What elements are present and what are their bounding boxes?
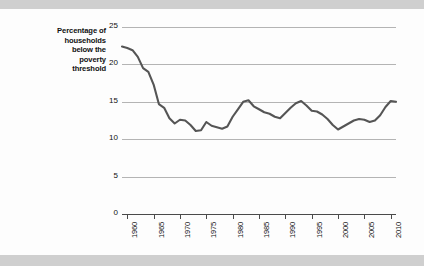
caption-text-4: poverty xyxy=(79,55,106,64)
y-tick-label-20: 20 xyxy=(109,58,118,67)
x-tick-label-2005: 2005 xyxy=(367,222,376,238)
x-tick-2005 xyxy=(364,214,365,219)
caption-text-5: threshold xyxy=(72,64,106,73)
x-tick-1975 xyxy=(206,214,207,219)
y-axis-caption-line-5: threshold xyxy=(14,64,106,74)
x-tick-label-1995: 1995 xyxy=(315,222,324,238)
series-line-path xyxy=(122,46,396,131)
x-tick-1970 xyxy=(180,214,181,219)
y-tick-label-5: 5 xyxy=(114,171,118,180)
x-tick-label-1970: 1970 xyxy=(183,222,192,238)
x-tick-1995 xyxy=(312,214,313,219)
y-tick-label-25: 25 xyxy=(109,21,118,30)
x-tick-1990 xyxy=(285,214,286,219)
y-axis-caption-line-3: below the xyxy=(14,45,106,55)
x-tick-2010 xyxy=(391,214,392,219)
x-tick-label-1985: 1985 xyxy=(262,222,271,238)
plot-area: 0510152025 19601965197019751980198519901… xyxy=(122,27,396,214)
x-tick-label-1990: 1990 xyxy=(288,222,297,238)
x-tick-label-2000: 2000 xyxy=(341,222,350,238)
poverty-rate-line-chart: Percentage of households below the pover… xyxy=(0,9,424,255)
y-tick-label-0: 0 xyxy=(114,208,118,217)
x-tick-1985 xyxy=(259,214,260,219)
y-axis-caption-line-2: households xyxy=(14,36,106,46)
y-tick-label-15: 15 xyxy=(109,96,118,105)
x-tick-1960 xyxy=(127,214,128,219)
caption-text-2: households xyxy=(64,36,106,45)
y-axis-caption-line-1: Percentage of xyxy=(14,26,106,36)
y-tick-label-10: 10 xyxy=(109,133,118,142)
y-axis-caption-line-4: poverty xyxy=(14,55,106,65)
x-tick-label-1980: 1980 xyxy=(236,222,245,238)
caption-text-1: Percentage of xyxy=(57,26,106,35)
x-tick-1980 xyxy=(233,214,234,219)
x-tick-label-1960: 1960 xyxy=(130,222,139,238)
x-tick-label-2010: 2010 xyxy=(394,222,403,238)
caption-text-3: below the xyxy=(72,45,106,54)
x-tick-label-1975: 1975 xyxy=(209,222,218,238)
page-background: Percentage of households below the pover… xyxy=(0,0,424,266)
x-tick-2000 xyxy=(338,214,339,219)
x-tick-label-1965: 1965 xyxy=(157,222,166,238)
y-axis-caption: Percentage of households below the pover… xyxy=(14,26,106,74)
x-tick-1965 xyxy=(154,214,155,219)
series-poverty-rate xyxy=(122,27,396,214)
